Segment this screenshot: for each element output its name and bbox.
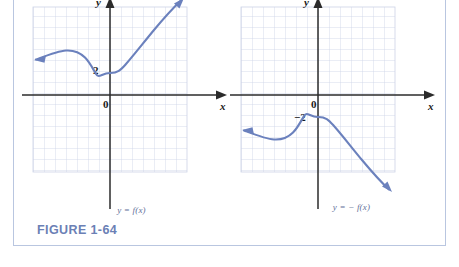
plot-right-caption: y = − f(x) — [244, 202, 459, 212]
plot-right-svg: y x 0 −2 — [230, 0, 445, 209]
y-axis-label-right: y — [302, 0, 309, 8]
x-axis-arrow-right — [424, 91, 435, 100]
origin-label-left: 0 — [103, 98, 109, 110]
plot-left-y-equals-fx: y x 0 2 y = f(x) — [22, 0, 237, 226]
x-axis-label-left: x — [219, 100, 226, 112]
plot-left-caption: y = f(x) — [24, 205, 239, 215]
y-axis-arrow-left — [106, 0, 115, 8]
plot-right-y-equals-minus-fx: y x 0 −2 y = − f(x) — [230, 0, 445, 226]
figure-caption-label: FIGURE 1-64 — [37, 223, 117, 237]
x-axis-arrow-left — [216, 91, 227, 100]
plot-left-svg: y x 0 2 — [22, 0, 237, 209]
y-axis-arrow-right — [314, 0, 323, 8]
figure-panel: y x 0 2 y = f(x) y — [13, 0, 446, 246]
x-axis-label-right: x — [427, 100, 434, 112]
y-axis-label-left: y — [94, 0, 101, 8]
origin-label-right: 0 — [311, 98, 317, 110]
